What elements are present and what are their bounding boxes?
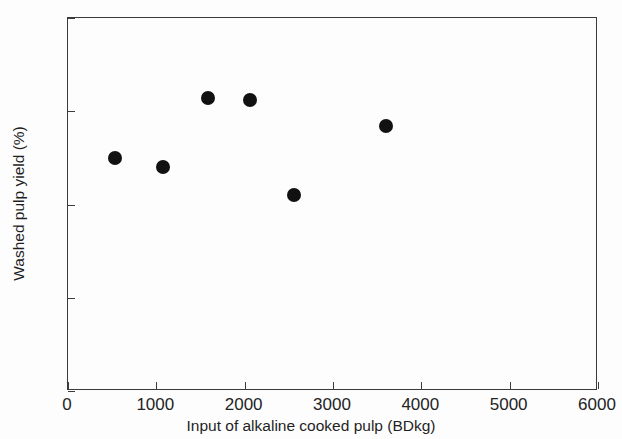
x-axis-tick-label: 6000 xyxy=(557,396,622,413)
y-axis-tick xyxy=(68,18,75,19)
y-axis-title: Washed pulp yield (%) xyxy=(8,17,30,390)
x-axis-tick-label: 0 xyxy=(27,396,107,413)
data-point xyxy=(201,91,215,105)
scatter-chart-figure: 80859095100 0100020003000400050006000 In… xyxy=(0,0,622,439)
y-axis-tick xyxy=(68,111,75,112)
y-axis-tick xyxy=(68,298,75,299)
x-axis-tick xyxy=(510,382,511,389)
x-axis-tick xyxy=(421,382,422,389)
data-point xyxy=(156,160,170,174)
x-axis-tick xyxy=(333,382,334,389)
plot-area xyxy=(67,17,597,390)
y-axis-tick xyxy=(68,205,75,206)
x-axis-tick-label: 3000 xyxy=(292,396,372,413)
x-axis-tick-label: 1000 xyxy=(115,396,195,413)
data-point xyxy=(108,151,122,165)
x-axis-tick xyxy=(156,382,157,389)
x-axis-tick-label: 4000 xyxy=(380,396,460,413)
data-point xyxy=(287,188,301,202)
x-axis-tick xyxy=(68,382,69,389)
x-axis-title: Input of alkaline cooked pulp (BDkg) xyxy=(0,417,622,435)
data-point xyxy=(243,93,257,107)
x-axis-tick-label: 2000 xyxy=(204,396,284,413)
data-point xyxy=(379,119,393,133)
x-axis-tick xyxy=(245,382,246,389)
y-axis-tick xyxy=(68,391,75,392)
x-axis-tick xyxy=(598,382,599,389)
x-axis-tick-label: 5000 xyxy=(469,396,549,413)
